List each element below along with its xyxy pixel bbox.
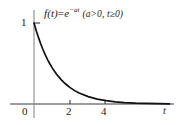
y-tick-label-1: 1 [21,17,27,28]
condition-text: (a>0, t≥0) [82,9,123,19]
origin-label: 0 [22,106,28,117]
exponent: −at [69,6,79,14]
function-lhs: f(t) [44,7,58,19]
function-annotation: f(t)=e−at (a>0, t≥0) [44,8,123,20]
exponential-decay-figure: f(t)=e−at (a>0, t≥0) 1 0 2 4 t [0,0,176,125]
x-axis-name-label: t [163,106,166,116]
x-tick-label-4: 4 [101,106,107,117]
x-tick-label-2: 2 [66,106,72,117]
exponential-decay-curve [34,23,169,104]
